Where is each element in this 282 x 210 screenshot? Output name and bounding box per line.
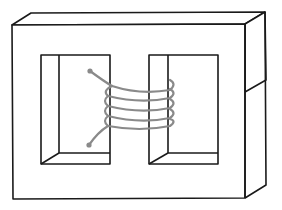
- coil-terminal-top: [87, 68, 92, 73]
- core-top-face: [12, 12, 265, 25]
- transformer-core: [12, 12, 266, 199]
- coil-terminal-bottom: [86, 142, 91, 147]
- diagram-canvas: [0, 0, 282, 210]
- core-front-face: [12, 24, 245, 199]
- core-side-face: [245, 12, 266, 92]
